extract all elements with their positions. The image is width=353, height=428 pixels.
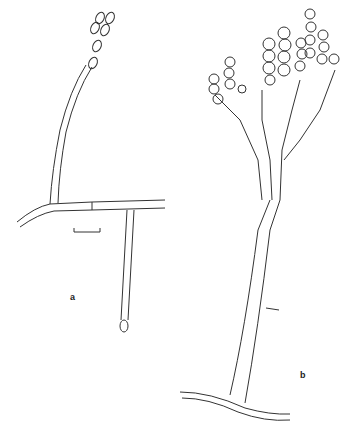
panel-a-drawing [17,11,165,332]
panel-b-drawing [180,9,339,420]
line-drawing [0,0,353,428]
panel-label-b: b [300,370,306,380]
panel-label-a: a [70,292,75,302]
conidia-chains [209,9,339,104]
figure-canvas: a b [0,0,353,428]
